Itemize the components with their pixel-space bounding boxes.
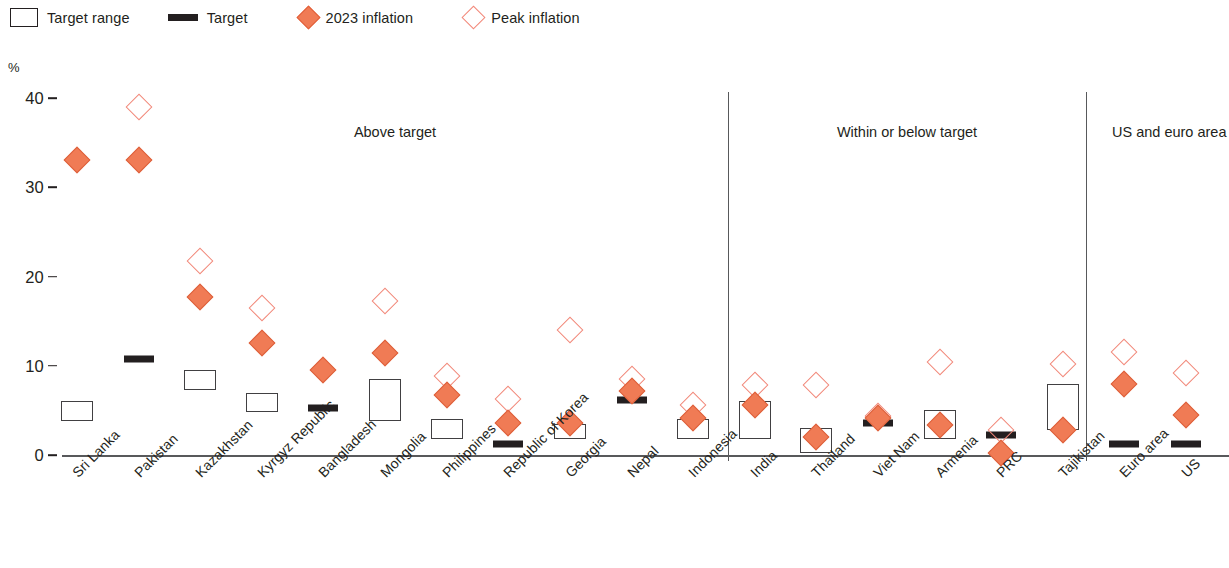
category-label-viet-nam: Viet Nam [870,428,922,480]
category-label-bangladesh: Bangladesh [315,416,379,480]
category-label-indonesia: Indonesia [685,425,740,480]
category-label-armenia: Armenia [932,432,981,481]
category-label-euro-area: Euro area [1116,425,1171,480]
x-axis-category-labels: Sri LankaPakistanKazakhstanKyrgyz Republ… [0,0,1229,568]
category-label-us: US [1178,455,1203,480]
category-label-pakistan: Pakistan [131,430,181,480]
category-label-prc: PRC [993,448,1025,480]
category-label-india: India [747,447,780,480]
category-label-tajikistan: Tajikistan [1055,428,1108,481]
category-label-thailand: Thailand [808,430,858,480]
inflation-chart: Target range Target 2023 inflation Peak … [0,0,1229,568]
category-label-philippines: Philippines [439,420,499,480]
category-label-sri-lanka: Sri Lanka [69,427,123,481]
category-label-mongolia: Mongolia [377,428,429,480]
category-label-kazakhstan: Kazakhstan [192,417,256,481]
category-label-nepal: Nepal [624,443,662,481]
category-label-georgia: Georgia [562,433,609,480]
